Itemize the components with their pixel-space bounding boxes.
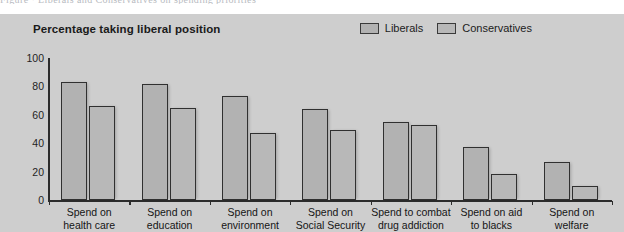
- y-axis-tick-label: 40: [12, 137, 44, 149]
- bar-group: [129, 58, 209, 200]
- chart-title: Percentage taking liberal position: [33, 23, 220, 35]
- x-axis-tick: [371, 201, 372, 205]
- bar-liberals-6: [544, 162, 570, 200]
- x-axis-label-line: Spend on: [129, 206, 209, 219]
- bar-liberals-3: [302, 109, 328, 200]
- x-axis-tick: [290, 201, 291, 205]
- x-axis-label-line: Social Security: [290, 219, 370, 232]
- bar-conservatives-4: [411, 125, 437, 200]
- x-axis-label: Spend onenvironment: [210, 206, 290, 231]
- x-axis-label-line: Spend on: [49, 206, 129, 219]
- x-axis-label: Spend to combatdrug addiction: [371, 206, 451, 231]
- y-axis-tick-label: 100: [12, 52, 44, 64]
- x-axis-label: Spend oneducation: [129, 206, 209, 231]
- x-axis-tick: [451, 201, 452, 205]
- x-axis-label: Spend on aidto blacks: [451, 206, 531, 231]
- y-axis-tick-label: 0: [12, 194, 44, 206]
- plot-area: 020406080100 Spend onhealth careSpend on…: [0, 44, 624, 216]
- bar-group: [49, 58, 129, 200]
- x-axis-label-line: Spend on: [210, 206, 290, 219]
- x-axis-label: Spend onhealth care: [49, 206, 129, 231]
- x-axis-label: Spend onSocial Security: [290, 206, 370, 231]
- y-axis-tick-label: 20: [12, 166, 44, 178]
- bar-conservatives-0: [89, 106, 115, 200]
- bar-group: [532, 58, 612, 200]
- x-axis-label: Spend onwelfare: [532, 206, 612, 231]
- legend-swatch-conservatives: [437, 23, 456, 34]
- x-axis-label-line: environment: [210, 219, 290, 232]
- legend-label-conservatives: Conservatives: [462, 22, 532, 34]
- bar-group: [451, 58, 531, 200]
- x-axis-label-line: drug addiction: [371, 219, 451, 232]
- bar-liberals-2: [222, 96, 248, 200]
- y-axis: 020406080100: [12, 44, 44, 188]
- bar-conservatives-6: [572, 186, 598, 200]
- x-axis-label-line: Spend on: [532, 206, 612, 219]
- x-axis-labels: Spend onhealth careSpend oneducationSpen…: [49, 206, 612, 232]
- x-axis-label-line: welfare: [532, 219, 612, 232]
- x-axis-label-line: Spend on: [290, 206, 370, 219]
- x-axis-tick: [49, 201, 50, 205]
- x-axis-label-line: Spend on aid: [451, 206, 531, 219]
- chart-panel: Percentage taking liberal position Liber…: [0, 14, 624, 232]
- bar-conservatives-2: [250, 133, 276, 200]
- legend-swatch-liberals: [360, 23, 379, 34]
- bar-liberals-5: [463, 147, 489, 200]
- y-axis-tick-label: 80: [12, 80, 44, 92]
- figure-container: Figure · Liberals and Conservatives on s…: [0, 0, 624, 232]
- bar-conservatives-1: [170, 108, 196, 200]
- bar-liberals-0: [61, 82, 87, 200]
- legend-entry-liberals: Liberals: [360, 22, 424, 34]
- x-axis-label-line: Spend to combat: [371, 206, 451, 219]
- x-axis-label-line: health care: [49, 219, 129, 232]
- bar-liberals-1: [142, 84, 168, 200]
- x-axis-tick: [210, 201, 211, 205]
- x-axis-label-line: to blacks: [451, 219, 531, 232]
- chart-header: Percentage taking liberal position Liber…: [0, 14, 624, 48]
- x-axis-tick: [129, 201, 130, 205]
- bar-conservatives-5: [491, 174, 517, 200]
- bar-group: [210, 58, 290, 200]
- x-axis-line: [48, 200, 612, 202]
- bar-liberals-4: [383, 122, 409, 200]
- bar-conservatives-3: [330, 130, 356, 200]
- bar-group: [371, 58, 451, 200]
- y-axis-tick-label: 60: [12, 109, 44, 121]
- bar-series-container: [49, 58, 612, 200]
- x-axis-tick: [532, 201, 533, 205]
- cut-off-caption: Figure · Liberals and Conservatives on s…: [0, 0, 624, 4]
- legend-label-liberals: Liberals: [385, 22, 424, 34]
- chart-legend: Liberals Conservatives: [360, 22, 532, 34]
- x-axis-label-line: education: [129, 219, 209, 232]
- bar-group: [290, 58, 370, 200]
- legend-entry-conservatives: Conservatives: [437, 22, 532, 34]
- x-axis-tick: [612, 201, 613, 205]
